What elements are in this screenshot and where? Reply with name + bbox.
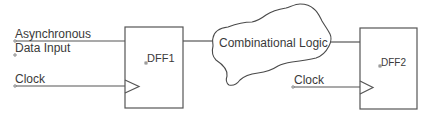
- dff1-label: DFF1: [147, 52, 175, 64]
- clock2-label: Clock: [294, 73, 325, 87]
- data-input-label: Data Input: [15, 41, 71, 55]
- dff1-block: [125, 27, 183, 108]
- clock1-label: Clock: [15, 72, 46, 86]
- combinational-logic-label: Combinational Logic: [219, 36, 328, 50]
- dff2-block: [360, 28, 417, 109]
- diagram-canvas: Asynchronous Data Input Clock DFF1 Combi…: [0, 0, 425, 117]
- async-input-label: Asynchronous: [15, 27, 91, 41]
- dff2-label: DFF2: [381, 57, 406, 68]
